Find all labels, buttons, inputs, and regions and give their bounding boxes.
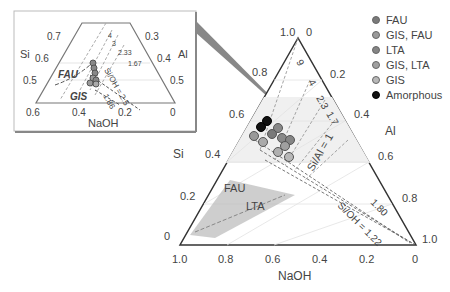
svg-text:0.4: 0.4 xyxy=(312,253,327,265)
svg-text:0.5: 0.5 xyxy=(23,75,37,86)
svg-text:1.67: 1.67 xyxy=(128,60,142,67)
svg-text:0.5: 0.5 xyxy=(170,75,184,86)
svg-text:0.8: 0.8 xyxy=(218,253,233,265)
svg-text:0.4: 0.4 xyxy=(205,148,220,160)
lta-region-label: LTA xyxy=(246,200,265,212)
inset-naoh-label: NaOH xyxy=(88,117,119,129)
svg-text:0.6: 0.6 xyxy=(229,108,244,120)
svg-text:0.4: 0.4 xyxy=(354,108,369,120)
svg-text:0.2: 0.2 xyxy=(330,68,345,80)
svg-text:0.2: 0.2 xyxy=(118,107,132,118)
amorphous-marker-icon xyxy=(372,91,380,99)
svg-text:0.2: 0.2 xyxy=(359,253,374,265)
legend-item-gis: GIS xyxy=(372,72,442,87)
svg-text:1.0: 1.0 xyxy=(422,233,437,245)
legend-item-lta: LTA xyxy=(372,42,442,57)
svg-text:0: 0 xyxy=(412,253,418,265)
inset-si-label: Si xyxy=(20,48,30,60)
svg-text:0.4: 0.4 xyxy=(157,53,171,64)
svg-text:0: 0 xyxy=(170,107,176,118)
fau-region-label: FAU xyxy=(224,182,245,194)
lta-marker-icon xyxy=(372,46,380,54)
svg-text:0.6: 0.6 xyxy=(378,150,393,162)
svg-text:0.7: 0.7 xyxy=(47,31,61,42)
svg-text:0.6: 0.6 xyxy=(35,53,49,64)
inset-al-label: Al xyxy=(178,48,188,60)
svg-text:0.6: 0.6 xyxy=(265,253,280,265)
svg-text:0.6: 0.6 xyxy=(26,107,40,118)
inset-fau-label: FAU xyxy=(58,69,79,80)
gis-lta-marker-icon xyxy=(372,61,380,69)
svg-text:1.0: 1.0 xyxy=(280,26,295,38)
svg-text:0.8: 0.8 xyxy=(402,192,417,204)
gis-fau-marker-icon xyxy=(372,31,380,39)
svg-text:0: 0 xyxy=(306,26,312,38)
legend-item-fau: FAU xyxy=(372,12,442,27)
svg-text:0.2: 0.2 xyxy=(180,190,195,202)
legend: FAU GIS, FAU LTA GIS, LTA GIS Amorphous xyxy=(372,12,442,102)
inset-gis-label: GIS xyxy=(70,91,88,102)
fau-marker-icon xyxy=(372,16,380,24)
main-si-label: Si xyxy=(173,147,184,161)
legend-item-amorphous: Amorphous xyxy=(372,87,442,102)
svg-text:1.0: 1.0 xyxy=(172,253,187,265)
svg-text:4: 4 xyxy=(108,32,112,39)
legend-item-gis-lta: GIS, LTA xyxy=(372,57,442,72)
svg-text:2.33: 2.33 xyxy=(118,49,132,56)
svg-text:0.8: 0.8 xyxy=(252,66,267,78)
gis-marker-icon xyxy=(372,76,380,84)
svg-text:0.3: 0.3 xyxy=(145,31,159,42)
legend-item-gis-fau: GIS, FAU xyxy=(372,27,442,42)
main-naoh-label: NaOH xyxy=(278,269,311,283)
main-al-label: Al xyxy=(385,124,396,138)
svg-text:0.4: 0.4 xyxy=(72,107,86,118)
svg-text:3: 3 xyxy=(112,40,116,47)
svg-text:0: 0 xyxy=(164,230,170,242)
